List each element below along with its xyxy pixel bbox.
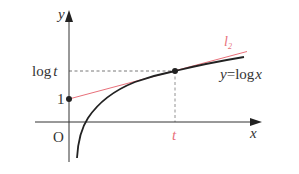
y-tick-log-t: logt bbox=[32, 63, 58, 79]
curve-label: y=logx bbox=[218, 66, 262, 82]
y-tick-one: 1 bbox=[57, 91, 65, 107]
x-tick-t: t bbox=[172, 127, 177, 143]
tangent-label: l2 bbox=[224, 34, 232, 51]
log-tangent-diagram: y x O 1 logt t l2 y=logx bbox=[0, 0, 299, 174]
y-axis-arrow-icon bbox=[65, 10, 73, 22]
y-axis-label: y bbox=[56, 6, 65, 22]
y-intercept-point bbox=[66, 96, 72, 102]
log-curve bbox=[77, 57, 244, 158]
origin-label: O bbox=[53, 129, 64, 145]
tangent-point bbox=[172, 68, 178, 74]
x-axis-label: x bbox=[249, 125, 257, 141]
